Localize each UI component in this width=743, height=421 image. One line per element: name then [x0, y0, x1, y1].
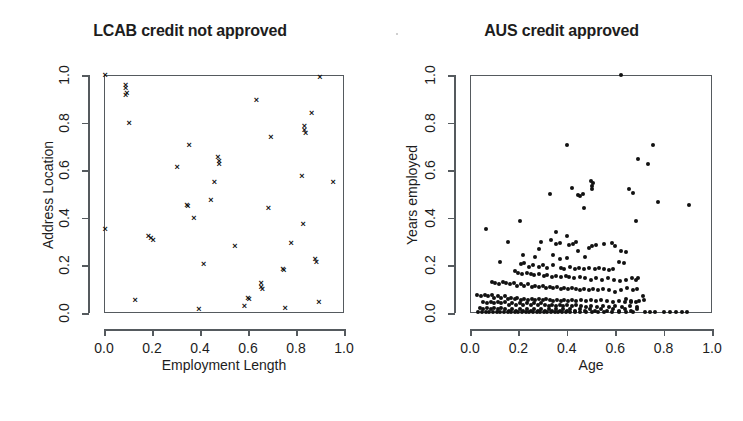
panel-title-lcab: LCAB credit not approved [0, 22, 380, 40]
data-point [607, 288, 611, 292]
xaxis-tick [152, 329, 154, 336]
data-point [579, 298, 583, 302]
data-point [613, 244, 617, 248]
yaxis-tick [448, 123, 455, 125]
data-point [601, 287, 605, 291]
data-point: × [303, 129, 308, 138]
data-point [498, 260, 502, 264]
data-point [521, 253, 525, 257]
data-point [591, 287, 595, 291]
data-point [600, 278, 604, 282]
xaxis-tick-label: 0.8 [286, 340, 305, 356]
data-point: × [232, 242, 237, 251]
data-point [582, 206, 586, 210]
data-point [558, 241, 562, 245]
data-point [628, 304, 632, 308]
data-point [567, 275, 571, 279]
data-point [551, 263, 555, 267]
xaxis-tick [248, 329, 250, 336]
data-point [602, 310, 606, 314]
data-point [593, 267, 597, 271]
data-point [506, 240, 510, 244]
data-point [539, 240, 543, 244]
data-point: × [301, 219, 306, 228]
xaxis-tick-label: 0.6 [605, 340, 624, 356]
data-point [602, 242, 606, 246]
xaxis-tick-label: 0.0 [94, 340, 113, 356]
data-point [576, 249, 580, 253]
yaxis-tick [82, 75, 89, 77]
data-point: × [331, 178, 336, 187]
yaxis-tick [82, 313, 89, 315]
data-point [642, 298, 646, 302]
data-point [578, 310, 582, 314]
data-point [587, 266, 591, 270]
data-point [656, 200, 660, 204]
xaxis-tick-label: 0.2 [142, 340, 161, 356]
yaxis-tick-label: 0.8 [422, 108, 438, 138]
data-point: × [187, 141, 192, 150]
data-point [619, 73, 623, 77]
data-point [573, 310, 577, 314]
data-point [565, 256, 569, 260]
xaxis-line [104, 329, 344, 331]
data-point [627, 187, 631, 191]
yaxis-tick-label: 0.4 [422, 203, 438, 233]
data-point [537, 247, 541, 251]
data-point [611, 267, 615, 271]
data-point: × [212, 178, 217, 187]
data-point: × [317, 73, 322, 82]
data-point [549, 238, 553, 242]
data-point [617, 299, 621, 303]
xaxis-tick-label: 0.4 [557, 340, 576, 356]
yaxis-tick [82, 218, 89, 220]
data-point [545, 273, 549, 277]
data-point [631, 191, 635, 195]
xaxis-tick [567, 329, 569, 336]
yaxis-tick [448, 170, 455, 172]
data-point: × [281, 266, 286, 275]
data-point [564, 310, 568, 314]
xaxis-tick-label: 0.4 [190, 340, 209, 356]
xaxis-tick [470, 329, 472, 336]
data-point: × [185, 201, 190, 210]
data-point [574, 240, 578, 244]
data-point: × [127, 118, 132, 127]
data-point: × [208, 195, 213, 204]
data-point [570, 286, 574, 290]
data-point [590, 310, 594, 314]
data-point: × [314, 257, 319, 266]
data-point [637, 299, 641, 303]
yaxis-tick-label: 0.0 [422, 298, 438, 328]
data-point [596, 288, 600, 292]
data-point: × [103, 224, 108, 233]
data-point [520, 272, 524, 276]
data-point [574, 303, 578, 307]
data-point [554, 230, 558, 234]
yaxis-tick [82, 170, 89, 172]
yaxis-tick-label: 0.0 [56, 298, 72, 328]
data-point [668, 310, 672, 314]
data-point [562, 267, 566, 271]
data-point [570, 298, 574, 302]
data-point [591, 181, 595, 185]
scatter-plot-figure: LCAB credit not approved 0.00.20.40.60.8… [0, 0, 743, 421]
data-point: × [266, 204, 271, 213]
yaxis-title-aus: Years employed [404, 135, 420, 255]
data-point [587, 288, 591, 292]
data-point: × [299, 172, 304, 181]
data-point [622, 261, 626, 265]
data-point [619, 288, 623, 292]
data-point: × [309, 109, 314, 118]
data-point [545, 266, 549, 270]
data-point [597, 266, 601, 270]
data-point [612, 278, 616, 282]
data-point [554, 274, 558, 278]
yaxis-tick-label: 0.2 [422, 250, 438, 280]
data-point [610, 310, 614, 314]
data-point [635, 307, 639, 311]
data-point [651, 143, 655, 147]
data-point: × [175, 162, 180, 171]
data-point [589, 298, 593, 302]
data-point [685, 310, 689, 314]
